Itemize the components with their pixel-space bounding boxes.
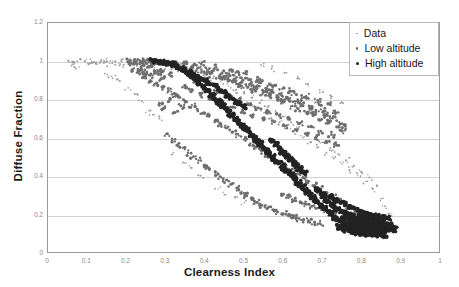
x-tick-label: 0 <box>32 257 62 264</box>
scatter-chart: 00.20.40.60.811.2 00.10.20.30.40.50.60.7… <box>0 0 459 287</box>
x-tick-label: 0.9 <box>386 257 416 264</box>
legend-marker-data <box>356 33 358 35</box>
x-tick-label: 1 <box>425 257 455 264</box>
legend-label-data: Data <box>364 28 386 39</box>
chart-legend: Data Low altitude High altitude <box>349 22 439 76</box>
y-axis-title: Diffuse Fraction <box>12 66 24 206</box>
legend-item-high-altitude: High altitude <box>350 56 438 71</box>
y-tick-label: 1.2 <box>13 18 43 25</box>
y-tick-label: 1 <box>13 57 43 64</box>
legend-item-low-altitude: Low altitude <box>350 41 438 56</box>
x-tick-label: 0.8 <box>346 257 376 264</box>
legend-label-high-altitude: High altitude <box>365 58 423 69</box>
y-tick-label: 0 <box>13 249 43 256</box>
x-tick-label: 0.4 <box>189 257 219 264</box>
x-tick-label: 0.7 <box>307 257 337 264</box>
y-tick-label: 0.2 <box>13 211 43 218</box>
legend-item-data: Data <box>350 26 438 41</box>
x-tick-label: 0.6 <box>268 257 298 264</box>
x-tick-label: 0.2 <box>111 257 141 264</box>
series-data <box>67 58 392 217</box>
legend-marker-high-altitude <box>356 62 359 65</box>
x-axis-title: Clearness Index <box>0 266 459 278</box>
x-tick-label: 0.1 <box>71 257 101 264</box>
x-tick-label: 0.5 <box>229 257 259 264</box>
legend-label-low-altitude: Low altitude <box>364 43 420 54</box>
legend-marker-low-altitude <box>356 47 358 49</box>
x-tick-label: 0.3 <box>150 257 180 264</box>
